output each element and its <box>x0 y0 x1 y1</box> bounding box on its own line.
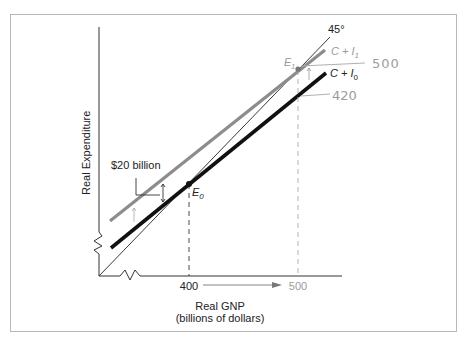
x-axis-sublabel: (billions of dollars) <box>176 312 265 324</box>
gnp-increase-arrow <box>203 282 282 288</box>
tick-label-400: 400 <box>180 280 198 292</box>
point-e0-label: E0 <box>192 186 204 201</box>
hand-line-420 <box>301 94 330 96</box>
y-axis-label: Real Expenditure <box>80 111 92 195</box>
line-c-plus-i0-label: C + I0 <box>330 67 359 82</box>
tick-label-500: 500 <box>289 280 307 292</box>
shift-arrow-right <box>307 68 311 80</box>
handwritten-420: 420 <box>332 88 357 103</box>
x-axis <box>99 270 342 280</box>
line-45-label: 45° <box>328 23 345 35</box>
shift-label: $20 billion <box>111 159 161 171</box>
x-axis-label: Real GNP <box>195 300 245 312</box>
point-e1-label: E1 <box>284 56 295 70</box>
line-c-plus-i1-label: C + I1 <box>331 45 359 60</box>
handwritten-500: 500 <box>372 56 400 71</box>
point-e1 <box>295 66 300 71</box>
shift-arrow-left <box>132 208 136 222</box>
keynesian-cross-chart: Real Expenditure Real GNP (billions of d… <box>0 0 466 345</box>
y-axis <box>94 27 102 276</box>
